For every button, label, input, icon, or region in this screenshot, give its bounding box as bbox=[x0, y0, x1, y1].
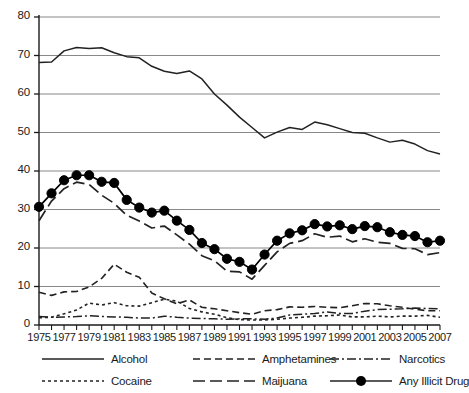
data-point-any-illicit-drug-2003 bbox=[385, 228, 394, 237]
data-point-any-illicit-drug-1997 bbox=[310, 220, 319, 229]
data-point-any-illicit-drug-1998 bbox=[323, 222, 332, 231]
data-point-any-illicit-drug-1976 bbox=[47, 189, 56, 198]
data-point-any-illicit-drug-1975 bbox=[34, 202, 43, 211]
chart-legend: AlcoholAmphetaminesNarcoticsCocaineMaiju… bbox=[0, 348, 463, 393]
y-tick-label-40: 40 bbox=[4, 163, 30, 175]
legend-swatch-any-illicit-drug bbox=[330, 374, 392, 388]
data-point-any-illicit-drug-1990 bbox=[222, 254, 231, 263]
legend-item-narcotics[interactable]: Narcotics bbox=[330, 350, 445, 368]
data-point-any-illicit-drug-1986 bbox=[172, 216, 181, 225]
legend-label: Any Illicit Drug bbox=[399, 375, 469, 387]
y-tick-label-30: 30 bbox=[4, 202, 30, 214]
data-point-any-illicit-drug-1982 bbox=[122, 195, 131, 204]
data-point-any-illicit-drug-1996 bbox=[298, 226, 307, 235]
legend-swatch-amphetamines bbox=[193, 352, 255, 366]
data-point-any-illicit-drug-2006 bbox=[423, 238, 432, 247]
legend-swatch-narcotics bbox=[330, 352, 392, 366]
y-tick-label-20: 20 bbox=[4, 240, 30, 252]
y-tick-label-0: 0 bbox=[4, 317, 30, 329]
data-point-any-illicit-drug-1983 bbox=[135, 203, 144, 212]
x-tick-label-2007: 2007 bbox=[425, 331, 455, 343]
y-tick-label-10: 10 bbox=[4, 279, 30, 291]
data-point-any-illicit-drug-1999 bbox=[335, 221, 344, 230]
data-point-any-illicit-drug-1991 bbox=[235, 257, 244, 266]
series-line-alcohol bbox=[39, 47, 440, 154]
data-point-any-illicit-drug-1987 bbox=[185, 225, 194, 234]
data-point-any-illicit-drug-2005 bbox=[410, 231, 419, 240]
data-point-any-illicit-drug-1985 bbox=[160, 206, 169, 215]
data-point-any-illicit-drug-1984 bbox=[147, 208, 156, 217]
data-point-any-illicit-drug-1988 bbox=[197, 238, 206, 247]
data-point-any-illicit-drug-2002 bbox=[373, 223, 382, 232]
legend-item-any-illicit-drug[interactable]: Any Illicit Drug bbox=[330, 372, 469, 390]
data-point-any-illicit-drug-1989 bbox=[210, 245, 219, 254]
data-point-any-illicit-drug-1978 bbox=[72, 171, 81, 180]
data-point-any-illicit-drug-1980 bbox=[97, 177, 106, 186]
legend-item-cocaine[interactable]: Cocaine bbox=[42, 372, 152, 390]
legend-label: Cocaine bbox=[111, 375, 152, 387]
data-point-any-illicit-drug-1992 bbox=[247, 265, 256, 274]
series-line-narcotics bbox=[39, 308, 440, 319]
data-point-any-illicit-drug-1979 bbox=[85, 171, 94, 180]
y-tick-label-50: 50 bbox=[4, 125, 30, 137]
legend-swatch-alcohol bbox=[42, 352, 104, 366]
legend-item-alcohol[interactable]: Alcohol bbox=[42, 350, 147, 368]
legend-label: Narcotics bbox=[399, 353, 445, 365]
data-point-any-illicit-drug-2007 bbox=[435, 236, 444, 245]
legend-item-maijuana[interactable]: Maijuana bbox=[193, 372, 307, 390]
data-point-any-illicit-drug-1993 bbox=[260, 250, 269, 259]
data-point-any-illicit-drug-2001 bbox=[360, 221, 369, 230]
y-tick-label-80: 80 bbox=[4, 9, 30, 21]
legend-label: Amphetamines bbox=[262, 353, 336, 365]
legend-swatch-cocaine bbox=[42, 374, 104, 388]
data-point-any-illicit-drug-1981 bbox=[110, 178, 119, 187]
legend-label: Alcohol bbox=[111, 353, 147, 365]
data-point-any-illicit-drug-1995 bbox=[285, 229, 294, 238]
legend-item-amphetamines[interactable]: Amphetamines bbox=[193, 350, 336, 368]
data-point-any-illicit-drug-1977 bbox=[59, 176, 68, 185]
data-point-any-illicit-drug-1994 bbox=[272, 236, 281, 245]
legend-label: Maijuana bbox=[262, 375, 307, 387]
data-point-any-illicit-drug-2000 bbox=[348, 225, 357, 234]
data-point-any-illicit-drug-2004 bbox=[398, 230, 407, 239]
legend-swatch-maijuana bbox=[193, 374, 255, 388]
series-line-any-illicit-drug bbox=[39, 175, 440, 269]
y-tick-label-60: 60 bbox=[4, 86, 30, 98]
y-tick-label-70: 70 bbox=[4, 48, 30, 60]
